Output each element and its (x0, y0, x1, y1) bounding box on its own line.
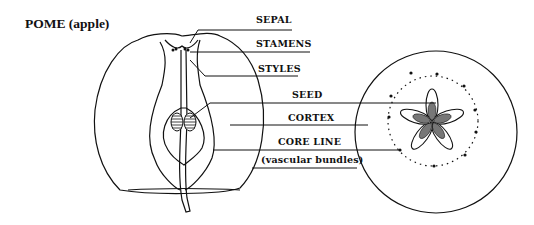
apple-diagram (0, 0, 534, 225)
label-seed: SEED (292, 89, 322, 100)
label-sepal: SEPAL (256, 14, 292, 25)
label-vascular-bundles: (vascular bundles) (261, 154, 363, 165)
carpel-chamber (163, 108, 204, 165)
label-stamens: STAMENS (256, 38, 311, 49)
label-styles: STYLES (258, 63, 301, 74)
star-core (399, 89, 465, 152)
label-cortex: CORTEX (288, 112, 334, 123)
label-core-line: CORE LINE (278, 136, 341, 147)
